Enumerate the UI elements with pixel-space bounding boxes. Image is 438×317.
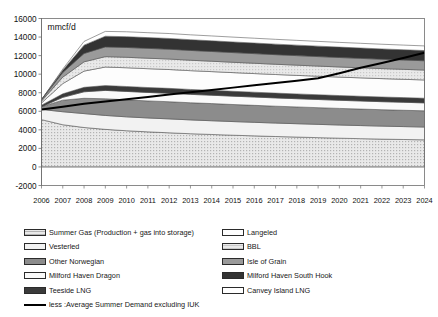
x-axis-tick-label: 2015	[225, 196, 241, 205]
legend-item: Milford Haven South Hook	[222, 269, 332, 282]
y-axis-tick-label: 8000	[18, 89, 37, 98]
legend-column-right: LangeledBBLIsle of GrainMilford Haven So…	[222, 226, 332, 298]
chart-container: 1600014000120001000080006000400020000-20…	[0, 0, 438, 317]
x-axis-tick-label: 2021	[352, 196, 368, 205]
x-axis-tick-label: 2012	[161, 196, 177, 205]
x-axis-tick-label: 2007	[55, 196, 71, 205]
y-axis-tick-label: 0	[32, 163, 37, 172]
y-axis-tick-label: 10000	[14, 70, 37, 79]
legend-item: Other Norwegian	[24, 255, 199, 268]
x-axis-tick-label: 2011	[140, 196, 156, 205]
x-axis-tick-label: 2008	[76, 196, 92, 205]
legend-item-label: BBL	[247, 242, 261, 251]
chart-legend: Summer Gas (Production + gas into storag…	[24, 226, 434, 314]
y-axis-tick-label: 12000	[14, 52, 37, 61]
legend-item-label: Langeled	[247, 228, 277, 237]
x-axis-tick-label: 2019	[310, 196, 326, 205]
legend-column-left: Summer Gas (Production + gas into storag…	[24, 226, 199, 312]
x-axis-tick-label: 2023	[395, 196, 411, 205]
legend-item: Isle of Grain	[222, 255, 332, 268]
x-axis-tick-label: 2022	[374, 196, 390, 205]
legend-item-label: Summer Gas (Production + gas into storag…	[49, 228, 194, 237]
x-axis-tick-label: 2020	[331, 196, 347, 205]
legend-item: less :Average Summer Demand excluding IU…	[24, 298, 199, 311]
legend-color-swatch	[24, 243, 46, 250]
legend-item: Teeside LNG	[24, 284, 199, 297]
y-axis-tick-label: 6000	[18, 107, 37, 116]
legend-item-label: Milford Haven Dragon	[49, 271, 120, 280]
legend-color-swatch	[222, 243, 244, 250]
y-axis-tick-label: -2000	[16, 182, 37, 191]
legend-line-swatch	[24, 304, 46, 306]
legend-item: BBL	[222, 240, 332, 253]
legend-color-swatch	[24, 229, 46, 236]
x-axis-tick-label: 2018	[289, 196, 305, 205]
legend-item-label: Vesterled	[49, 242, 79, 251]
legend-item: Milford Haven Dragon	[24, 269, 199, 282]
x-axis-tick-label: 2016	[246, 196, 262, 205]
legend-color-swatch	[222, 258, 244, 265]
x-axis-tick-label: 2010	[118, 196, 134, 205]
legend-item-label: less :Average Summer Demand excluding IU…	[49, 300, 199, 309]
x-axis-tick-label: 2017	[267, 196, 283, 205]
x-axis-tick-label: 2024	[416, 196, 432, 205]
legend-color-swatch	[24, 258, 46, 265]
x-axis-tick-label: 2006	[33, 196, 49, 205]
x-axis-tick-label: 2013	[182, 196, 198, 205]
y-axis-unit-label: mmcf/d	[48, 22, 76, 32]
y-axis-tick-label: 16000	[14, 15, 37, 24]
legend-item: Canvey Island LNG	[222, 284, 332, 297]
legend-item-label: Milford Haven South Hook	[247, 271, 332, 280]
x-axis-tick-label: 2014	[203, 196, 219, 205]
legend-item-label: Teeside LNG	[49, 286, 91, 295]
legend-item-label: Isle of Grain	[247, 257, 286, 266]
legend-color-swatch	[24, 287, 46, 294]
y-axis-tick-label: 4000	[18, 126, 37, 135]
legend-color-swatch	[222, 287, 244, 294]
legend-item: Langeled	[222, 226, 332, 239]
y-axis-tick-label: 2000	[18, 144, 37, 153]
legend-color-swatch	[24, 272, 46, 279]
legend-color-swatch	[222, 229, 244, 236]
legend-item: Vesterled	[24, 240, 199, 253]
legend-color-swatch	[222, 272, 244, 279]
x-axis-tick-label: 2009	[97, 196, 113, 205]
y-axis-tick-label: 14000	[14, 33, 37, 42]
legend-item-label: Other Norwegian	[49, 257, 104, 266]
legend-item-label: Canvey Island LNG	[247, 286, 310, 295]
legend-item: Summer Gas (Production + gas into storag…	[24, 226, 199, 239]
